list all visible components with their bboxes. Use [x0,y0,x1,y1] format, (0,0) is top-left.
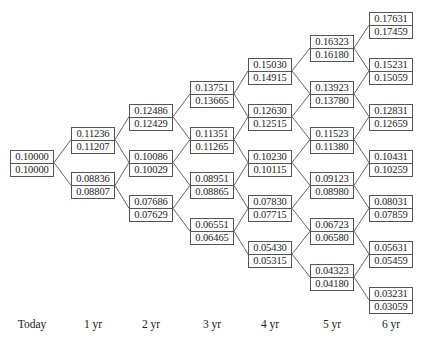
branch-line [234,231,248,254]
tree-node: 0.100860.10029 [129,150,173,177]
tree-node: 0.126300.12515 [248,104,292,131]
lower-rate-value: 0.10115 [249,164,291,176]
tree-node: 0.150300.14915 [248,58,292,85]
lower-rate-value: 0.07715 [249,209,291,221]
upper-rate-value: 0.10230 [249,151,291,164]
upper-rate-value: 0.15030 [249,59,291,72]
period-label: Today [2,318,62,330]
branch-line [173,140,190,163]
tree-node: 0.124860.12429 [129,104,173,131]
lower-rate-value: 0.11265 [191,141,233,153]
period-label: 4 yr [240,318,300,330]
tree-node: 0.088360.08807 [71,172,115,199]
lower-rate-value: 0.05459 [370,255,412,267]
tree-node: 0.152310.15059 [369,58,413,85]
branch-line [234,140,248,163]
tree-node: 0.091230.08980 [310,172,354,199]
lower-rate-value: 0.08807 [72,186,114,198]
tree-node: 0.113510.11265 [190,127,234,154]
tree-node: 0.054300.05315 [248,241,292,268]
branch-line [292,208,310,231]
branch-line [54,140,71,163]
lower-rate-value: 0.13665 [191,95,233,107]
upper-rate-value: 0.06551 [191,219,233,232]
tree-node: 0.065510.06465 [190,218,234,245]
tree-node: 0.102300.10115 [248,150,292,177]
lower-rate-value: 0.08865 [191,186,233,198]
period-label: 3 yr [182,318,242,330]
branch-line [292,94,310,117]
lower-rate-value: 0.17459 [370,26,412,38]
upper-rate-value: 0.12831 [370,105,412,118]
upper-rate-value: 0.13923 [311,82,353,95]
lower-rate-value: 0.12429 [130,118,172,130]
upper-rate-value: 0.10000 [11,151,53,164]
branch-line [292,185,310,208]
lower-rate-value: 0.16180 [311,49,353,61]
upper-rate-value: 0.11236 [72,128,114,141]
branch-line [354,48,369,71]
upper-rate-value: 0.12486 [130,105,172,118]
branch-line [173,163,190,186]
tree-node: 0.128310.12659 [369,104,413,131]
upper-rate-value: 0.05631 [370,242,412,255]
upper-rate-value: 0.04323 [311,265,353,278]
tree-node: 0.032310.03059 [369,287,413,314]
upper-rate-value: 0.09123 [311,173,353,186]
period-label: 5 yr [302,318,362,330]
branch-line [292,140,310,163]
branch-line [292,71,310,94]
lower-rate-value: 0.04180 [311,278,353,290]
tree-node: 0.056310.05459 [369,241,413,268]
branch-line [173,94,190,117]
branch-line [115,163,129,186]
lower-rate-value: 0.10029 [130,164,172,176]
upper-rate-value: 0.13751 [191,82,233,95]
upper-rate-value: 0.11523 [311,128,353,141]
lower-rate-value: 0.15059 [370,72,412,84]
upper-rate-value: 0.15231 [370,59,412,72]
branch-line [234,71,248,94]
lower-rate-value: 0.12515 [249,118,291,130]
branch-line [115,185,129,208]
tree-node: 0.104310.10259 [369,150,413,177]
branch-line [292,254,310,277]
lower-rate-value: 0.10000 [11,164,53,176]
branch-line [354,117,369,140]
upper-rate-value: 0.07830 [249,196,291,209]
upper-rate-value: 0.03231 [370,288,412,301]
branch-line [173,117,190,140]
tree-node: 0.080310.07859 [369,195,413,222]
lower-rate-value: 0.03059 [370,301,412,313]
lower-rate-value: 0.13780 [311,95,353,107]
tree-node: 0.100000.10000 [10,150,54,177]
branch-line [234,163,248,186]
tree-node: 0.115230.11380 [310,127,354,154]
tree-node: 0.067230.06580 [310,218,354,245]
tree-node: 0.078300.07715 [248,195,292,222]
upper-rate-value: 0.07686 [130,196,172,209]
lower-rate-value: 0.06580 [311,232,353,244]
branch-line [354,254,369,277]
tree-node: 0.139230.13780 [310,81,354,108]
branch-line [115,140,129,163]
upper-rate-value: 0.05430 [249,242,291,255]
branch-line [292,231,310,254]
upper-rate-value: 0.17631 [370,13,412,26]
branch-line [354,231,369,254]
tree-node: 0.043230.04180 [310,264,354,291]
period-label: 6 yr [361,318,421,330]
lower-rate-value: 0.11207 [72,141,114,153]
branch-line [354,185,369,208]
branch-line [292,117,310,140]
branch-line [354,140,369,163]
lower-rate-value: 0.06465 [191,232,233,244]
branch-line [354,25,369,48]
lower-rate-value: 0.10259 [370,164,412,176]
lower-rate-value: 0.14915 [249,72,291,84]
branch-line [354,208,369,231]
branch-line [234,117,248,140]
branch-line [115,117,129,140]
tree-node: 0.137510.13665 [190,81,234,108]
tree-node: 0.089510.08865 [190,172,234,199]
